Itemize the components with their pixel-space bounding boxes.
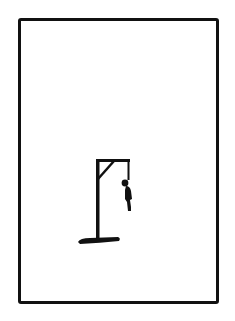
hanged-figure-icon	[122, 180, 132, 211]
gallows-brace	[98, 161, 114, 179]
figure-head	[122, 180, 129, 187]
gallows-icon	[78, 159, 130, 244]
hangman-canvas	[0, 0, 235, 321]
figure-body	[125, 186, 132, 211]
gallows-post	[96, 159, 100, 240]
gallows-rope	[128, 161, 130, 180]
hangman-drawing	[0, 0, 235, 321]
